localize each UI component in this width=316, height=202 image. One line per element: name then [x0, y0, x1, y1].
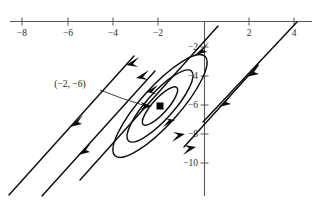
x-tick-label--6: −6 — [63, 28, 73, 38]
trajectory-group — [9, 22, 297, 196]
y-tick-label--10: −10 — [183, 158, 198, 168]
x-axis: −8 −6 −4 −2 2 4 — [10, 18, 312, 39]
trajectory-far-left — [9, 56, 134, 195]
x-tick-label-2: 2 — [247, 28, 252, 38]
equilibrium-point-marker — [157, 103, 164, 110]
phase-portrait-figure: −8 −6 −4 −2 2 4 −2 −4 −6 −8 − — [0, 0, 316, 202]
x-tick-label--2: −2 — [153, 28, 163, 38]
phase-portrait-plot: −8 −6 −4 −2 2 4 −2 −4 −6 −8 − — [0, 0, 316, 202]
annotation-leader-line — [100, 90, 146, 106]
x-tick-label--8: −8 — [17, 28, 27, 38]
x-tick-label--4: −4 — [108, 28, 118, 38]
x-tick-label-4: 4 — [292, 28, 297, 38]
y-tick-label--6: −6 — [188, 100, 198, 110]
equilibrium-point-label: (−2, −6) — [54, 79, 85, 90]
flow-arrow-icon — [136, 70, 149, 80]
flow-arrow-icon — [172, 132, 185, 142]
x-axis-tick-labels: −8 −6 −4 −2 2 4 — [17, 28, 297, 38]
flow-arrow-icon — [219, 94, 232, 107]
trajectory-left — [42, 71, 155, 196]
